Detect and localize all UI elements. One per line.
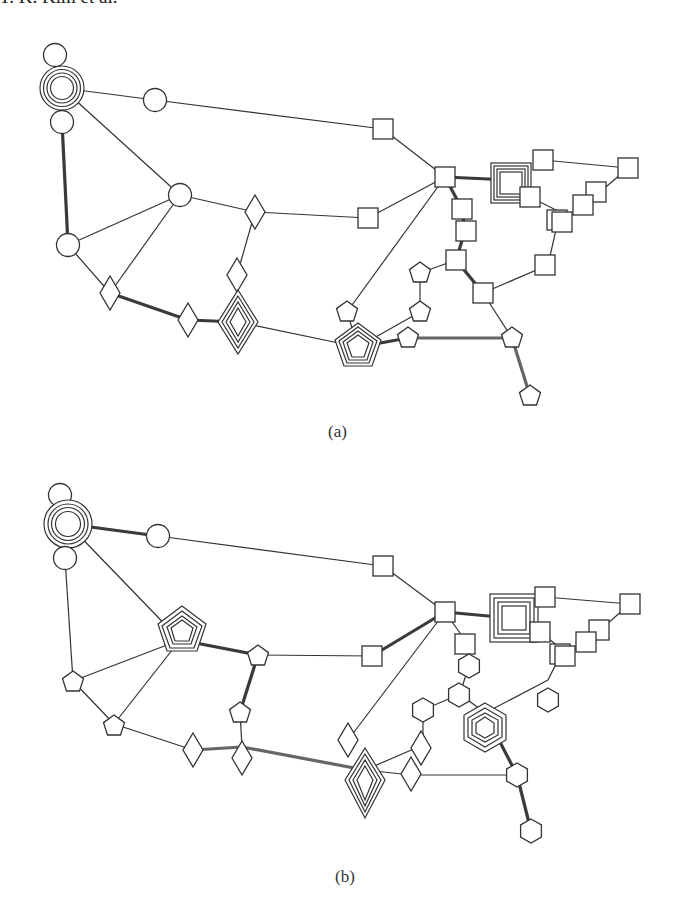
caption-b: (b) <box>335 867 355 887</box>
panel-a-graph <box>40 44 638 406</box>
figure-graphs <box>0 0 676 923</box>
panel-b-graph <box>44 484 640 844</box>
caption-a: (a) <box>328 422 347 442</box>
